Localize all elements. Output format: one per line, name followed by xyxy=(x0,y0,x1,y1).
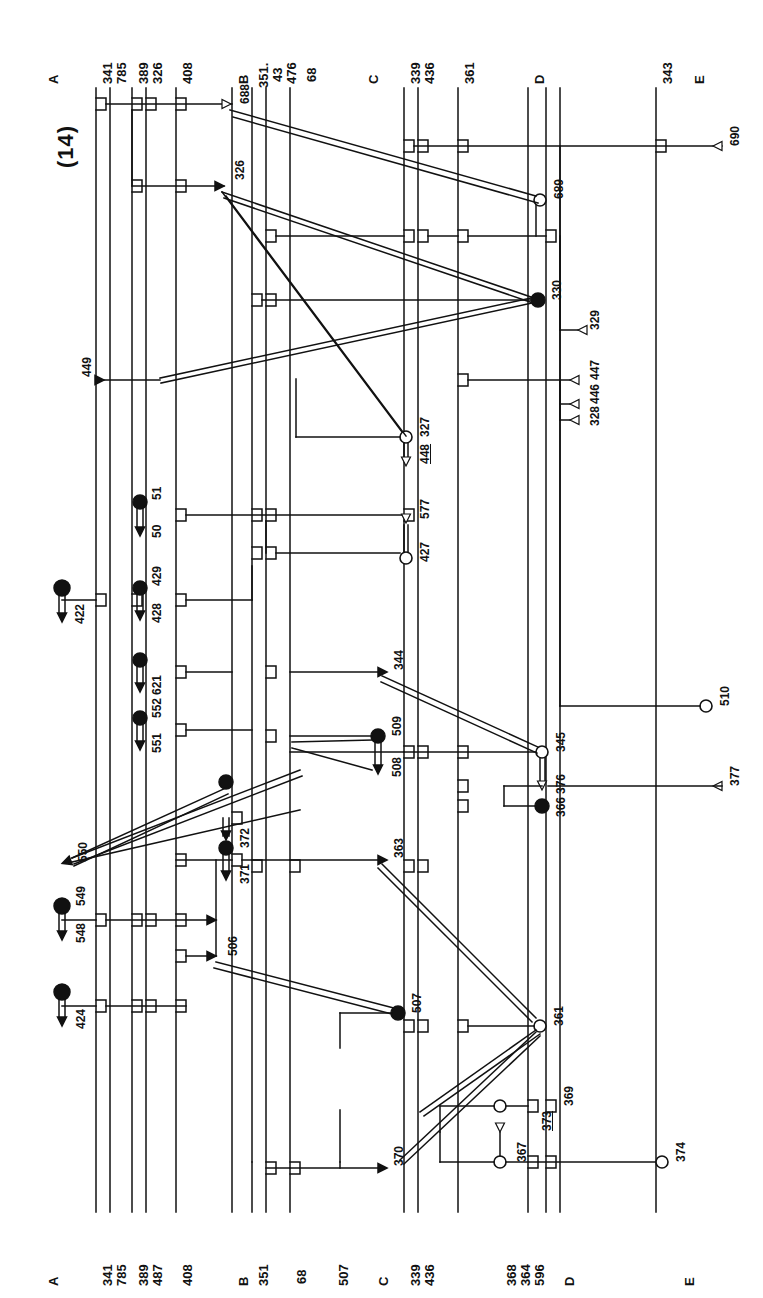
bus-label-326-top: 326 xyxy=(151,62,164,84)
terminal-label-424: 424 xyxy=(75,1009,87,1029)
bus-label-596-bottom: 596 xyxy=(533,1264,546,1286)
terminal-label-373: 373 xyxy=(541,1111,553,1131)
bus-label-408-top: 408 xyxy=(181,62,194,84)
terminal-label-363: 363 xyxy=(393,838,405,858)
terminal-label-370: 370 xyxy=(393,1146,405,1166)
terminal-label-330: 330 xyxy=(551,280,563,300)
bus-label-436-bottom: 436 xyxy=(423,1264,436,1286)
section-label-e-bottom: E xyxy=(683,1277,696,1286)
bus-label-785-top: 785 xyxy=(115,62,128,84)
bus-label-368-bottom: 368 xyxy=(505,1264,518,1286)
bus-label-408-bottom: 408 xyxy=(181,1264,194,1286)
bus-label-785-bottom: 785 xyxy=(115,1264,128,1286)
terminal-label-429: 429 xyxy=(151,566,163,586)
terminal-label-510: 510 xyxy=(719,686,731,706)
terminal-label-548: 548 xyxy=(75,923,87,943)
terminal-label-377: 377 xyxy=(729,766,741,786)
terminal-label-449: 449 xyxy=(81,357,93,377)
terminal-label-508: 508 xyxy=(391,757,403,777)
terminal-label-344: 344 xyxy=(393,650,405,670)
section-label-b-bottom: B xyxy=(237,1277,250,1286)
terminal-label-621: 621 xyxy=(151,675,163,695)
terminal-label-328: 328 xyxy=(589,406,601,426)
section-label-a-top: A xyxy=(47,75,60,84)
bus-label-361-top: 361 xyxy=(463,62,476,84)
bus-label-364-bottom: 364 xyxy=(519,1264,532,1286)
terminal-label-372: 372 xyxy=(239,828,251,848)
section-label-e-top: E xyxy=(693,75,706,84)
section-label-d-bottom: D xyxy=(563,1277,576,1286)
bus-label-351-top: 351. xyxy=(257,63,270,88)
bus-label-339-top: 339 xyxy=(409,62,422,84)
terminal-label-447: 447 xyxy=(589,360,601,380)
terminal-label-371: 371 xyxy=(239,864,251,884)
bus-label-487-bottom: 487 xyxy=(151,1264,164,1286)
terminal-label-422: 422 xyxy=(74,604,86,624)
section-label-d-top: D xyxy=(533,75,546,84)
terminal-label-550: 550 xyxy=(77,842,89,862)
terminal-label-509: 509 xyxy=(391,716,403,736)
terminal-label-361: 361 xyxy=(553,1006,565,1026)
terminal-label-367: 367 xyxy=(516,1142,528,1162)
bus-label-351-bottom: 351 xyxy=(257,1264,270,1286)
terminal-label-427: 427 xyxy=(419,542,431,562)
bus-label-476-top: 476 xyxy=(285,62,298,84)
terminal-label-329: 329 xyxy=(589,310,601,330)
terminal-label-369: 369 xyxy=(563,1086,575,1106)
section-label-b-top: B xyxy=(237,75,250,84)
terminal-label-552: 552 xyxy=(151,698,163,718)
figure-number: (14) xyxy=(55,125,77,168)
terminal-label-374: 374 xyxy=(675,1142,687,1162)
terminal-label-366: 366 xyxy=(555,797,567,817)
bus-label-507-bottom: 507 xyxy=(337,1264,350,1286)
terminal-label-549: 549 xyxy=(75,886,87,906)
section-label-a-bottom: A xyxy=(47,1277,60,1286)
section-label-c-top: C xyxy=(367,75,380,84)
schematic-canvas xyxy=(0,0,763,1298)
bus-label-389-top: 389 xyxy=(137,62,150,84)
terminal-label-376: 376 xyxy=(555,774,567,794)
terminal-label-688: 688 xyxy=(239,84,251,104)
bus-label-341-top: 341 xyxy=(101,62,114,84)
diagram-page: A 341 785 389 326 408 B 351. 43 476 68 C… xyxy=(0,0,763,1298)
bus-label-389-bottom: 389 xyxy=(137,1264,150,1286)
terminal-label-577: 577 xyxy=(419,499,431,519)
terminal-label-51: 51 xyxy=(151,487,163,500)
bus-label-339-bottom: 339 xyxy=(409,1264,422,1286)
terminal-label-551: 551 xyxy=(151,733,163,753)
terminal-label-689: 689 xyxy=(553,179,565,199)
terminal-label-327: 327 xyxy=(419,417,431,437)
section-label-c-bottom: C xyxy=(377,1277,390,1286)
terminal-label-345: 345 xyxy=(555,732,567,752)
terminal-label-446: 446 xyxy=(589,384,601,404)
terminal-label-50: 50 xyxy=(151,525,163,538)
bus-label-436-top: 436 xyxy=(423,62,436,84)
bus-label-341-bottom: 341 xyxy=(101,1264,114,1286)
terminal-label-428: 428 xyxy=(151,603,163,623)
bus-label-68-bottom: 68 xyxy=(295,1270,308,1284)
terminal-label-506: 506 xyxy=(227,936,239,956)
terminal-label-690: 690 xyxy=(729,126,741,146)
bus-label-43-top: 43 xyxy=(271,68,284,82)
bus-label-343-top: 343 xyxy=(661,62,674,84)
schematic-svg xyxy=(0,0,763,1298)
terminal-label-507: 507 xyxy=(411,993,423,1013)
bus-label-68-top: 68 xyxy=(305,68,318,82)
terminal-label-448: 448 xyxy=(419,444,431,464)
terminal-label-326: 326 xyxy=(234,160,246,180)
